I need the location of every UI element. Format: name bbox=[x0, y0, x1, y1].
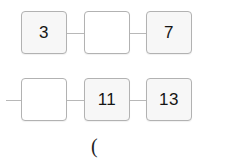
chain-node-r2c2[interactable]: 11 bbox=[84, 78, 130, 121]
chain-link-r2-1 bbox=[67, 100, 84, 101]
paren-annotation: ( bbox=[91, 136, 98, 156]
chain-node-r1c2-blank[interactable] bbox=[84, 11, 130, 54]
chain-link-r2-lead bbox=[6, 100, 21, 101]
chain-node-r1c1[interactable]: 3 bbox=[21, 11, 67, 54]
chain-node-r2c1-blank[interactable] bbox=[21, 78, 67, 121]
chain-node-r2c3[interactable]: 13 bbox=[146, 78, 192, 121]
chain-link-r1-1 bbox=[67, 33, 84, 34]
chain-link-r1-2 bbox=[130, 33, 146, 34]
chain-node-r1c3[interactable]: 7 bbox=[146, 11, 192, 54]
diagram-canvas: 3 7 11 13 ( bbox=[0, 0, 225, 167]
chain-link-r2-2 bbox=[130, 100, 146, 101]
